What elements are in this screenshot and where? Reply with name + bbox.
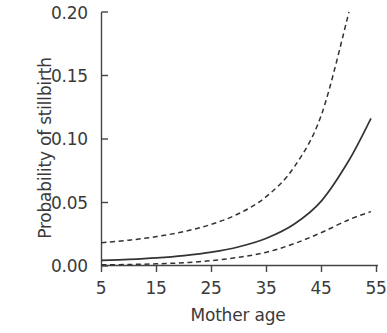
- y-tick-label-0.20: 0.20: [20, 3, 88, 23]
- curve-lower-confidence-limit: [102, 212, 372, 265]
- curve-predicted-probability: [102, 118, 372, 260]
- x-tick-label-35: 35: [255, 278, 276, 298]
- chart-figure: 0.20 0.15 0.10 0.05 0.00 5 15 25 35 45 5…: [0, 0, 387, 333]
- x-axis-ticks: [102, 266, 377, 273]
- x-tick-label-15: 15: [145, 278, 166, 298]
- x-axis-title: Mother age: [100, 305, 376, 325]
- data-curves: [102, 12, 372, 265]
- curve-upper-confidence-limit: [102, 12, 350, 243]
- x-tick-label-25: 25: [200, 278, 221, 298]
- x-tick-label-45: 45: [310, 278, 331, 298]
- y-axis-ticks: [102, 12, 109, 266]
- y-axis-title: Probability of stillbirth: [35, 23, 55, 273]
- x-tick-label-5: 5: [96, 278, 107, 298]
- x-tick-label-55: 55: [365, 278, 386, 298]
